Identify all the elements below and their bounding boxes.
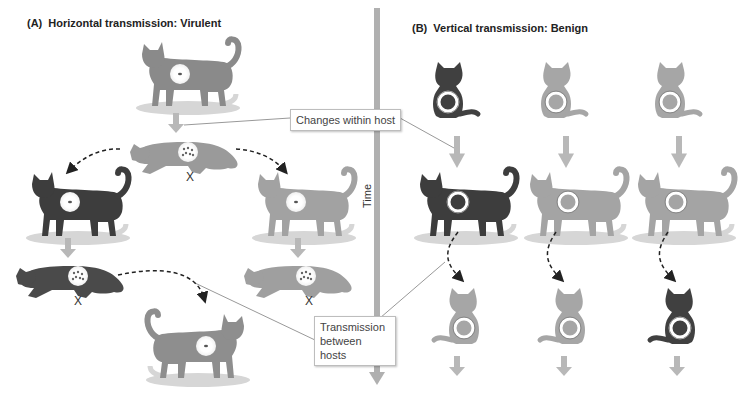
host-a-dying-2 bbox=[16, 266, 124, 298]
host-a-right bbox=[252, 169, 356, 245]
dead-marker-2: X bbox=[74, 294, 82, 308]
callout-transmission-line3: hosts bbox=[320, 348, 390, 362]
callout-changes-within-host: Changes within host bbox=[290, 109, 401, 131]
callout-transmission-line1: Transmission bbox=[320, 320, 390, 334]
adult-b2 bbox=[524, 169, 628, 245]
panel-b-diagram bbox=[414, 62, 736, 376]
dead-marker-3: X bbox=[305, 294, 313, 308]
adult-b1 bbox=[414, 169, 518, 245]
host-a-left bbox=[26, 169, 130, 245]
callout-transmission-line2: between bbox=[320, 334, 390, 348]
host-a-dying-1 bbox=[130, 142, 238, 174]
kitten-b1-parent bbox=[433, 62, 478, 118]
kitten-b2-parent bbox=[541, 62, 586, 118]
time-axis-label: Time bbox=[361, 184, 373, 208]
callout-transmission-between-hosts: Transmission between hosts bbox=[314, 316, 396, 366]
kitten-b3-offspring bbox=[650, 288, 695, 344]
callout-changes-text: Changes within host bbox=[296, 114, 395, 126]
host-a-bottom bbox=[146, 311, 250, 387]
kitten-b1-offspring bbox=[434, 288, 479, 344]
kitten-b2-offspring bbox=[540, 288, 585, 344]
host-a-top bbox=[136, 39, 240, 115]
host-a-dying-3 bbox=[244, 266, 352, 298]
dead-marker-1: X bbox=[186, 170, 194, 184]
adult-b3 bbox=[632, 169, 736, 245]
kitten-b3-parent bbox=[655, 62, 700, 118]
